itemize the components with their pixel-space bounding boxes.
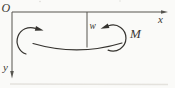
beam-deflection-curve (33, 43, 122, 50)
y-axis-label: y (2, 61, 8, 73)
left-moment-arrow-icon (17, 28, 35, 54)
x-axis-label: x (157, 13, 163, 25)
right-moment-arrow-icon (108, 25, 126, 51)
scan-speck (39, 1, 41, 3)
deflection-label: w (90, 21, 97, 31)
scan-shadow-line (10, 84, 168, 85)
diagram-canvas: O x y w M (0, 0, 175, 88)
y-axis-arrowhead-icon (10, 71, 14, 79)
beam-bending-diagram: O x y w M (0, 0, 175, 88)
right-moment-arrowhead-icon (101, 24, 110, 29)
scan-speck (119, 0, 120, 1)
moment-label: M (129, 26, 142, 41)
left-moment-arrowhead-icon (35, 26, 44, 31)
origin-label: O (2, 1, 11, 15)
